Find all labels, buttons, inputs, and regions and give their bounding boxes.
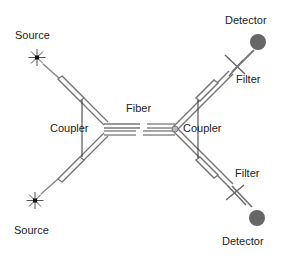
source-top-icon bbox=[29, 49, 46, 66]
left-coupler-upper-arm bbox=[58, 76, 108, 125]
lead-fiber-top-right bbox=[232, 50, 254, 72]
coupler-right-label: Coupler bbox=[183, 123, 222, 134]
filter-bottom-icon bbox=[226, 185, 246, 205]
source-bottom-icon bbox=[27, 192, 44, 209]
lead-fiber-bottom-right bbox=[232, 186, 252, 207]
detector-top-label: Detector bbox=[225, 15, 267, 26]
left-coupler-lower-arm bbox=[58, 133, 108, 182]
detector-top-icon bbox=[250, 34, 266, 50]
coupler-left-label: Coupler bbox=[50, 123, 89, 134]
source-top-label: Source bbox=[15, 30, 50, 41]
right-coupler-lower-arm bbox=[173, 128, 233, 187]
lead-fiber-top-left bbox=[43, 64, 60, 79]
source-bottom-label: Source bbox=[14, 225, 49, 236]
central-fiber bbox=[104, 124, 175, 135]
filter-bottom-label: Filter bbox=[235, 168, 259, 179]
fiber-label: Fiber bbox=[126, 103, 151, 114]
detector-bottom-label: Detector bbox=[222, 236, 264, 247]
filter-top-label: Filter bbox=[236, 74, 260, 85]
lead-fiber-bottom-left bbox=[41, 179, 58, 194]
detector-bottom-icon bbox=[249, 210, 265, 226]
